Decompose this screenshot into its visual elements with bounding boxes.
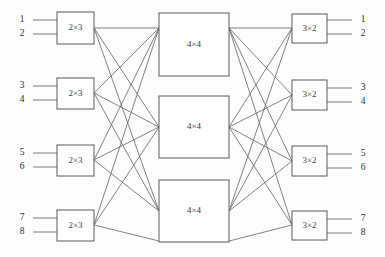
middle-to-egress-links	[229, 28, 292, 241]
input-port-label-3: 3	[20, 80, 25, 90]
egress-switch-label-3: 3×2	[302, 155, 316, 165]
link-ingress-middle	[94, 28, 159, 93]
middle-switch-label-2: 4×4	[187, 121, 202, 131]
link-ingress-middle	[94, 93, 159, 211]
network-canvas: 2×32×32×32×3 4×44×44×4 3×23×23×23×2 1234…	[0, 0, 385, 257]
output-port-label-1: 1	[361, 14, 366, 24]
input-port-label-4: 4	[20, 94, 25, 104]
output-port-label-5: 5	[361, 148, 366, 158]
output-port-label-4: 4	[361, 96, 366, 106]
input-port-label-7: 7	[20, 212, 25, 222]
middle-switch-group: 4×44×44×4	[159, 13, 229, 242]
ingress-switch-group: 2×32×32×32×3	[57, 12, 94, 241]
link-ingress-middle	[94, 28, 159, 211]
output-port-label-6: 6	[361, 162, 366, 172]
ingress-switch-label-2: 2×3	[68, 88, 83, 98]
input-port-label-5: 5	[20, 147, 25, 157]
egress-switch-label-2: 3×2	[302, 89, 316, 99]
link-middle-egress	[229, 28, 292, 225]
input-port-lines	[33, 20, 57, 232]
ingress-switch-label-3: 2×3	[68, 155, 83, 165]
output-port-labels: 12345678	[361, 14, 366, 237]
output-port-label-2: 2	[361, 28, 366, 38]
middle-switch-label-3: 4×4	[187, 205, 202, 215]
link-ingress-middle	[94, 127, 159, 225]
link-ingress-middle	[94, 127, 159, 160]
middle-switch-label-1: 4×4	[187, 39, 202, 49]
link-middle-egress	[229, 161, 292, 211]
link-ingress-middle	[94, 225, 159, 241]
input-port-labels: 12345678	[20, 14, 25, 236]
link-middle-egress	[229, 28, 292, 95]
clos-network-diagram: 2×32×32×32×3 4×44×44×4 3×23×23×23×2 1234…	[0, 0, 385, 257]
input-port-label-8: 8	[20, 226, 25, 236]
ingress-switch-label-1: 2×3	[68, 22, 83, 32]
link-ingress-middle	[94, 28, 159, 160]
egress-switch-label-1: 3×2	[302, 23, 316, 33]
link-middle-egress	[229, 225, 292, 241]
link-middle-egress	[229, 28, 292, 211]
input-port-label-2: 2	[20, 28, 25, 38]
link-ingress-middle	[94, 28, 159, 127]
ingress-switch-label-4: 2×3	[68, 220, 83, 230]
ingress-to-middle-links	[94, 28, 159, 241]
link-middle-egress	[229, 95, 292, 127]
output-port-lines	[327, 20, 352, 233]
link-ingress-middle	[94, 160, 159, 211]
input-port-label-1: 1	[20, 14, 25, 24]
input-port-label-6: 6	[20, 161, 25, 171]
output-port-label-7: 7	[361, 213, 366, 223]
egress-switch-label-4: 3×2	[302, 220, 316, 230]
link-middle-egress	[229, 127, 292, 161]
egress-switch-group: 3×23×23×23×2	[292, 14, 327, 240]
output-port-label-3: 3	[361, 82, 366, 92]
link-ingress-middle	[94, 28, 159, 225]
output-port-label-8: 8	[361, 227, 366, 237]
